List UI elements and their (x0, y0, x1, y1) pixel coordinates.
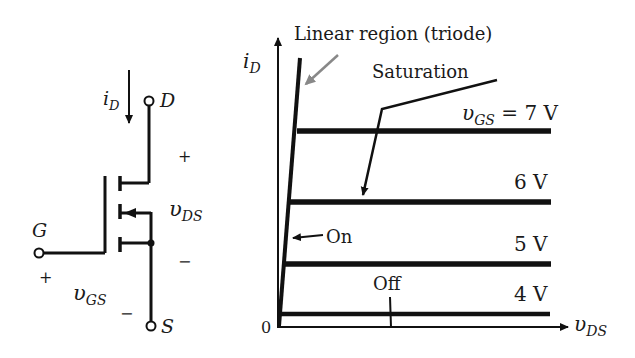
source-terminal (147, 322, 156, 331)
vds-plus-sign: + (178, 147, 191, 166)
curve-label-6v: 6 V (514, 170, 548, 194)
on-arrow (293, 235, 323, 238)
linear-region-label: Linear region (triode) (294, 23, 492, 44)
origin-label: 0 (261, 318, 271, 337)
mosfet-circuit-symbol: iD D + υDS − G + υGS − S (32, 70, 203, 337)
curve-label-5v: 5 V (514, 232, 548, 256)
x-axis-label: υDS (574, 312, 607, 339)
junction-dot (148, 240, 155, 247)
triode-boundary-line (279, 58, 300, 326)
gate-terminal (35, 249, 44, 258)
linear-region-arrow (306, 55, 338, 84)
saturation-arrow (363, 80, 497, 195)
off-tick (390, 297, 391, 327)
vgs-minus-sign: − (120, 304, 133, 323)
off-label: Off (373, 273, 402, 294)
vgs-plus-sign: + (39, 268, 52, 287)
drain-label: D (159, 89, 175, 111)
vds-minus-sign: − (178, 252, 191, 271)
body-arrow-icon (124, 208, 136, 218)
mosfet-diagram: iD D + υDS − G + υGS − S iD υDS 0 υGS = … (0, 0, 635, 358)
curve-label-4v: 4 V (514, 282, 548, 306)
output-characteristics-graph: iD υDS 0 υGS = 7 V 6 V 5 V 4 V Linear re… (243, 23, 607, 339)
y-axis-label: iD (243, 49, 261, 76)
saturation-label: Saturation (372, 61, 469, 82)
drain-terminal (145, 97, 154, 106)
source-label: S (161, 315, 174, 337)
vds-label: υDS (169, 197, 203, 224)
on-label: On (326, 226, 353, 247)
gate-label: G (32, 219, 47, 241)
vgs-label: υGS (73, 281, 107, 308)
current-label: iD (103, 87, 120, 113)
curve-label-7v: υGS = 7 V (462, 101, 559, 128)
